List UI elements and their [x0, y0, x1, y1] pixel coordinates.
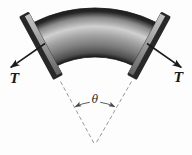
torque-arrow-right [147, 44, 181, 68]
torque-arrow-left [11, 44, 45, 68]
dashed-radius-line-right [96, 82, 132, 144]
angle-label: θ [92, 93, 99, 105]
torque-label-left: T [10, 72, 20, 86]
torque-label-right: T [174, 71, 184, 85]
curved-bar-diagram: θ T T [0, 0, 192, 155]
dashed-radius-line-left [61, 82, 95, 144]
angle-arc-right [100, 102, 114, 106]
angle-arc-left [76, 102, 90, 106]
figure-curved-bar-torsion: θ T T [0, 0, 192, 155]
